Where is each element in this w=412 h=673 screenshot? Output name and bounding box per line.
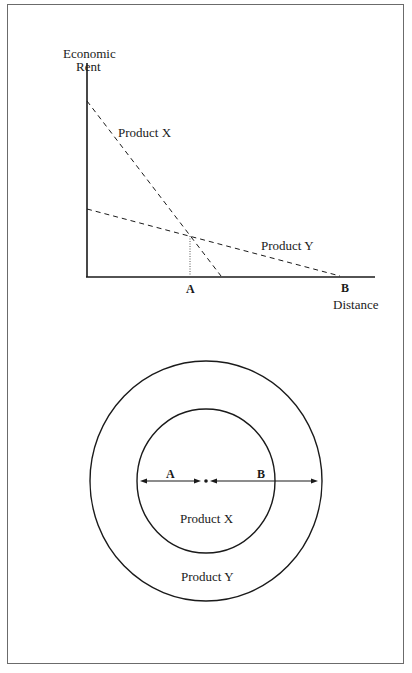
- figure-canvas: Economic Rent Product X Product Y A B Di…: [0, 0, 412, 673]
- outer-zone-label: Product Y: [181, 569, 234, 584]
- arrowhead-right-icon: [311, 479, 318, 484]
- arrowhead-left-icon: [140, 479, 147, 484]
- concentric-rings-diagram: A B Product X Product Y: [90, 361, 322, 601]
- arrowhead-left-icon: [210, 479, 217, 484]
- x-axis-label: Distance: [333, 297, 379, 312]
- arrowhead-right-icon: [194, 479, 201, 484]
- inner-zone-label: Product X: [180, 511, 234, 526]
- product-y-line-label: Product Y: [261, 238, 314, 253]
- y-axis-label-line2: Rent: [76, 59, 101, 74]
- radius-a-label: A: [166, 467, 175, 481]
- product-x-line-label: Product X: [118, 125, 172, 140]
- tick-b-label: B: [341, 281, 349, 295]
- bid-rent-graph: Economic Rent Product X Product Y A B Di…: [63, 46, 379, 312]
- center-point: [204, 479, 208, 483]
- tick-a-label: A: [186, 282, 195, 296]
- radius-b-label: B: [257, 467, 265, 481]
